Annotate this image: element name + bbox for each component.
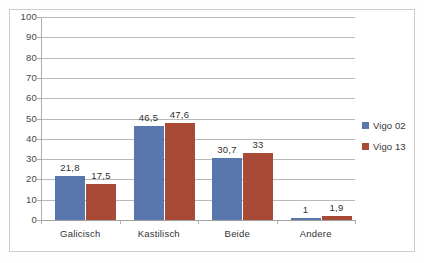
y-axis-tick-label: 100: [7, 12, 37, 21]
y-axis-tick-label: 30: [7, 154, 37, 163]
y-axis-tick-label: 50: [7, 114, 37, 123]
bar-chart-figure: 1009080706050403020100 21,817,546,547,63…: [0, 0, 424, 263]
y-axis-tick-label: 20: [7, 174, 37, 183]
legend-label: Vigo 02: [373, 120, 406, 131]
x-axis-category-label: Andere: [277, 228, 355, 239]
y-axis-tick-label: 10: [7, 195, 37, 204]
x-axis-category-label: Beide: [198, 228, 276, 239]
chart-legend: Vigo 02Vigo 13: [362, 117, 414, 159]
bar-vigo-13[interactable]: [165, 123, 195, 220]
x-axis-tick-mark: [41, 220, 42, 224]
bar-series-layer: 21,817,546,547,630,73311,9: [41, 17, 355, 220]
bar-value-label: 1,9: [314, 203, 360, 213]
y-axis-tick-label: 0: [7, 215, 37, 224]
bar-vigo-02[interactable]: [134, 126, 164, 220]
y-axis-tick-label: 90: [7, 32, 37, 41]
x-axis-category-label: Galicisch: [41, 228, 119, 239]
legend-swatch-icon: [362, 122, 369, 129]
y-axis-tick-label: 70: [7, 73, 37, 82]
legend-label: Vigo 13: [373, 141, 406, 152]
bar-group: 21,817,5: [41, 17, 120, 220]
bar-value-label: 17,5: [78, 171, 124, 181]
x-axis-tick-mark: [198, 220, 199, 224]
bar-value-label: 33: [235, 140, 281, 150]
bar-group: 46,547,6: [120, 17, 199, 220]
bar-vigo-13[interactable]: [243, 153, 273, 220]
legend-entry[interactable]: Vigo 02: [362, 117, 414, 133]
y-axis-tick-label: 60: [7, 93, 37, 102]
x-axis-category-label: Kastilisch: [120, 228, 198, 239]
bar-vigo-02[interactable]: [55, 176, 85, 220]
x-axis-tick-mark: [120, 220, 121, 224]
bar-group: 11,9: [277, 17, 356, 220]
bar-group: 30,733: [198, 17, 277, 220]
bar-value-label: 47,6: [157, 110, 203, 120]
x-axis-tick-mark: [355, 220, 356, 224]
legend-entry[interactable]: Vigo 13: [362, 138, 414, 154]
legend-swatch-icon: [362, 143, 369, 150]
bar-vigo-13[interactable]: [86, 184, 116, 220]
y-axis-tick-label: 80: [7, 53, 37, 62]
x-axis-tick-mark: [277, 220, 278, 224]
y-axis-tick-label: 40: [7, 134, 37, 143]
y-axis-tick-labels: 1009080706050403020100: [6, 17, 37, 220]
bar-vigo-02[interactable]: [212, 158, 242, 220]
